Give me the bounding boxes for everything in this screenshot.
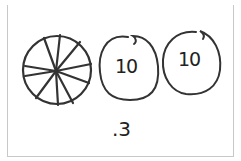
ten-disk-label: 10 (178, 48, 200, 70)
ten-disk-label: 10 (115, 55, 137, 77)
divided-circle-icon (23, 35, 91, 105)
decimal-caption: .3 (112, 117, 131, 141)
